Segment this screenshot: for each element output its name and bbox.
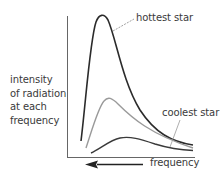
- y-axis-label-line: of radiation: [10, 87, 66, 101]
- coolest-star-curve: [91, 137, 193, 153]
- y-axis-label-line: frequency: [10, 114, 66, 128]
- coolest-star-label: coolest star: [162, 107, 219, 119]
- hottest-leader-line: [113, 19, 134, 31]
- y-axis-label-line: intensity: [10, 73, 66, 87]
- y-axis-label: intensity of radiation at each frequency: [10, 73, 66, 127]
- y-axis-label-line: at each: [10, 100, 66, 114]
- hottest-star-label: hottest star: [136, 12, 193, 24]
- hottest-star-curve: [81, 15, 193, 145]
- x-axis-label: frequency: [150, 157, 199, 169]
- frequency-arrow-head-icon: [85, 161, 98, 169]
